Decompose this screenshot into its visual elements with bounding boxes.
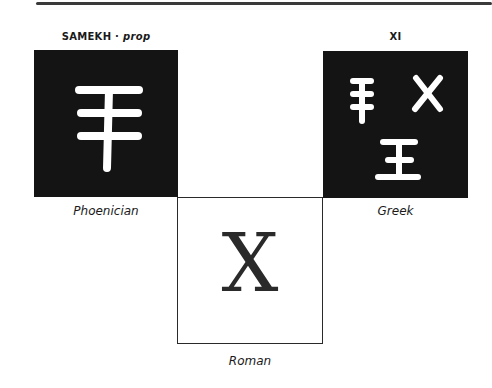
samekh-heading: SAMEKH · prop bbox=[34, 31, 178, 42]
xi-heading: XI bbox=[323, 31, 468, 42]
greek-label: Greek bbox=[323, 204, 468, 218]
phoenician-label: Phoenician bbox=[34, 204, 178, 218]
roman-label: Roman bbox=[177, 354, 323, 368]
samekh-glyph-icon bbox=[34, 50, 178, 197]
samekh-meaning: prop bbox=[123, 31, 150, 42]
phoenician-panel bbox=[34, 50, 178, 197]
greek-panel bbox=[323, 51, 468, 198]
roman-panel: X bbox=[177, 197, 323, 344]
separator-dot: · bbox=[115, 31, 119, 42]
xi-glyphs-icon bbox=[323, 51, 468, 198]
top-rule bbox=[36, 2, 492, 5]
roman-x-glyph: X bbox=[178, 224, 322, 304]
samekh-title: SAMEKH bbox=[62, 31, 112, 42]
